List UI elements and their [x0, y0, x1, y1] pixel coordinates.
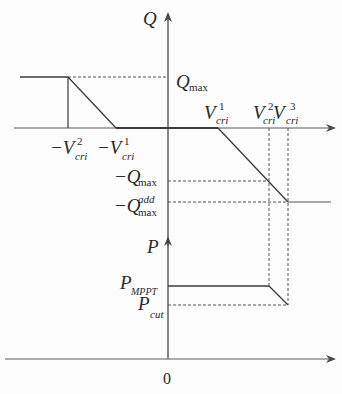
q-p-voltage-characteristic-diagram: Q Q max −V 2 cri −V 1 cri V 1 cri V 2 cr… [0, 0, 342, 394]
svg-text:cut: cut [150, 308, 164, 320]
svg-text:V: V [273, 102, 287, 123]
svg-text:max: max [138, 206, 157, 218]
p-curtail-slope [269, 286, 288, 305]
svg-text:−V: −V [97, 137, 124, 158]
left-droop-slope [68, 77, 116, 128]
origin-label: 0 [163, 370, 171, 387]
p-cut-label: P cut [137, 293, 164, 320]
v-cri2-label: V 2 cri [253, 100, 275, 126]
svg-text:cri: cri [286, 114, 298, 126]
v-cri3-label: V 3 cri [273, 100, 298, 126]
svg-text:cri: cri [122, 150, 134, 162]
svg-text:max: max [189, 81, 208, 93]
p-axis-label: P [146, 236, 159, 257]
neg-q-max-label: −Q max [114, 166, 157, 188]
svg-text:1: 1 [219, 100, 225, 112]
neg-q-max-add-label: −Q max add [114, 193, 157, 218]
svg-text:cri: cri [75, 150, 87, 162]
svg-text:3: 3 [290, 100, 296, 112]
svg-text:max: max [138, 176, 157, 188]
neg-v-cri2-label: −V 2 cri [50, 135, 87, 162]
v-cri1-label: V 1 cri [204, 100, 228, 126]
svg-text:Q: Q [176, 71, 190, 92]
svg-text:1: 1 [124, 135, 130, 147]
neg-v-cri1-label: −V 1 cri [97, 135, 134, 162]
svg-text:−Q: −Q [114, 195, 141, 216]
upper-q-v-plot [14, 14, 334, 305]
svg-text:2: 2 [77, 135, 83, 147]
svg-text:P: P [137, 293, 150, 314]
q-axis-label: Q [143, 8, 157, 29]
svg-text:−Q: −Q [114, 166, 141, 187]
q-max-label: Q max [176, 71, 208, 93]
right-droop-slope [218, 128, 288, 202]
svg-text:−V: −V [50, 137, 77, 158]
lower-p-plot [5, 238, 334, 359]
svg-text:add: add [138, 193, 155, 205]
svg-text:cri: cri [216, 114, 228, 126]
